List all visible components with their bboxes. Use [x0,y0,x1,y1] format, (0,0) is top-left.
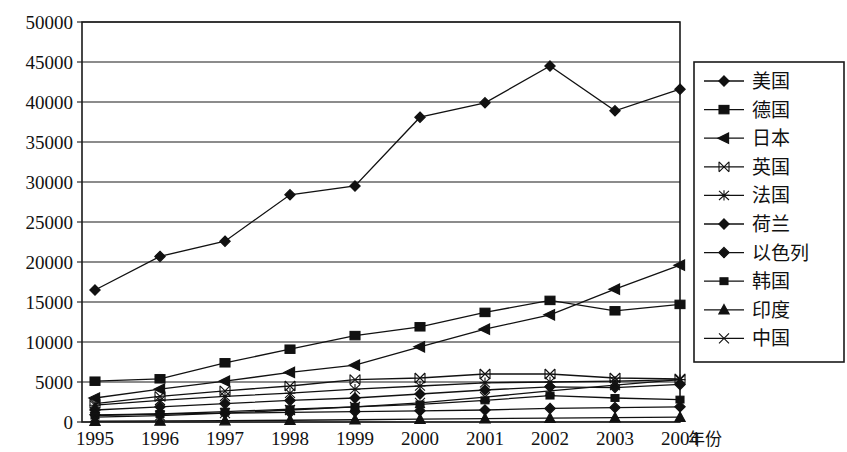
data-point-square [155,375,165,383]
marker-square [675,300,685,308]
series-line [95,66,680,290]
data-point-diamond [350,393,360,403]
marker-diamond [90,285,100,295]
legend: 美国德国日本英国法国荷兰以色列韩国印度中国 [694,62,844,362]
y-tick-label: 25000 [26,212,74,233]
y-tick-label: 15000 [26,292,74,313]
marker-triangle-left [609,284,620,294]
y-tick-label: 35000 [26,132,74,153]
x-tick-label: 1999 [336,428,374,449]
grid-lines [82,22,680,422]
marker-diamond [480,98,490,108]
x-tick-label: 1998 [271,428,309,449]
data-point-square [610,307,620,315]
legend-label: 印度 [752,299,790,321]
chart-container: 0500010000150002000025000300003500040000… [0,0,847,452]
x-axis-title-label: 年份 [688,429,722,449]
data-point-triangle-left [479,324,490,334]
data-series-group [89,61,686,426]
data-point-diamond [220,236,230,246]
data-point-diamond [675,84,685,94]
marker-square [480,308,490,316]
y-axis-tick-labels: 0500010000150002000025000300003500040000… [26,12,83,433]
data-point-square [285,345,295,353]
marker-diamond [675,379,685,389]
x-tick-label: 2002 [531,428,569,449]
marker-square [719,105,729,113]
data-point-triangle-left [609,284,620,294]
line-chart-figure: 0500010000150002000025000300003500040000… [0,0,847,452]
data-point-triangle-left [544,310,555,320]
data-point-triangle-left [349,360,360,370]
x-tick-label: 1995 [76,428,114,449]
data-point-diamond [480,98,490,108]
marker-square [545,296,555,304]
y-tick-label: 5000 [35,372,73,393]
series-德国 [90,296,685,385]
marker-diamond [610,106,620,116]
marker-square-small [611,395,619,402]
y-tick-label: 30000 [26,172,74,193]
marker-diamond [350,393,360,403]
y-tick-label: 45000 [26,52,74,73]
data-point-diamond [415,389,425,399]
data-point-diamond [155,251,165,261]
y-tick-label: 40000 [26,92,74,113]
data-point-square [719,105,729,113]
marker-diamond [220,236,230,246]
legend-label: 以色列 [752,242,809,264]
series-line [95,380,680,406]
y-tick-label: 50000 [26,12,74,33]
marker-triangle-left [544,310,555,320]
data-point-diamond [90,285,100,295]
marker-square-small [676,396,684,403]
series-line [95,300,680,381]
x-tick-label: 2003 [596,428,634,449]
y-tick-label: 10000 [26,332,74,353]
x-tick-label: 2000 [401,428,439,449]
x-axis-title: 年份 [688,429,722,449]
y-tick-label: 0 [64,412,74,433]
data-point-triangle-left [219,376,230,386]
marker-triangle-left [219,376,230,386]
data-point-square-small [221,408,229,415]
marker-triangle-left [414,342,425,352]
data-point-square [350,331,360,339]
series-英国 [90,369,685,409]
x-axis-tick-labels: 1995199619971998199920002001200220032004 [76,428,700,449]
data-point-diamond [675,379,685,389]
data-point-square-small [720,278,728,285]
marker-square [285,345,295,353]
data-point-triangle-left [284,367,295,377]
data-point-star [719,190,730,200]
data-point-square [545,296,555,304]
data-point-square-small [611,395,619,402]
legend-label: 法国 [752,184,790,206]
x-tick-label: 1996 [141,428,179,449]
legend-label: 中国 [752,327,790,349]
series-美国 [90,61,685,295]
marker-square [350,331,360,339]
marker-square [415,323,425,331]
marker-square [90,377,100,385]
marker-triangle-left [349,360,360,370]
data-point-square-small [676,396,684,403]
data-point-square [480,308,490,316]
data-point-square [675,300,685,308]
legend-label: 韩国 [752,270,790,292]
marker-square-small [720,278,728,285]
data-point-triangle-left [414,342,425,352]
data-point-square [90,377,100,385]
marker-triangle-left [284,367,295,377]
y-tick-label: 20000 [26,252,74,273]
marker-square [610,307,620,315]
legend-label: 英国 [752,156,790,178]
data-point-diamond [285,190,295,200]
data-point-square [220,359,230,367]
marker-star [719,190,730,200]
marker-triangle-left [479,324,490,334]
x-tick-label: 2001 [466,428,504,449]
legend-label: 美国 [752,70,790,92]
marker-square [220,359,230,367]
data-point-square [415,323,425,331]
